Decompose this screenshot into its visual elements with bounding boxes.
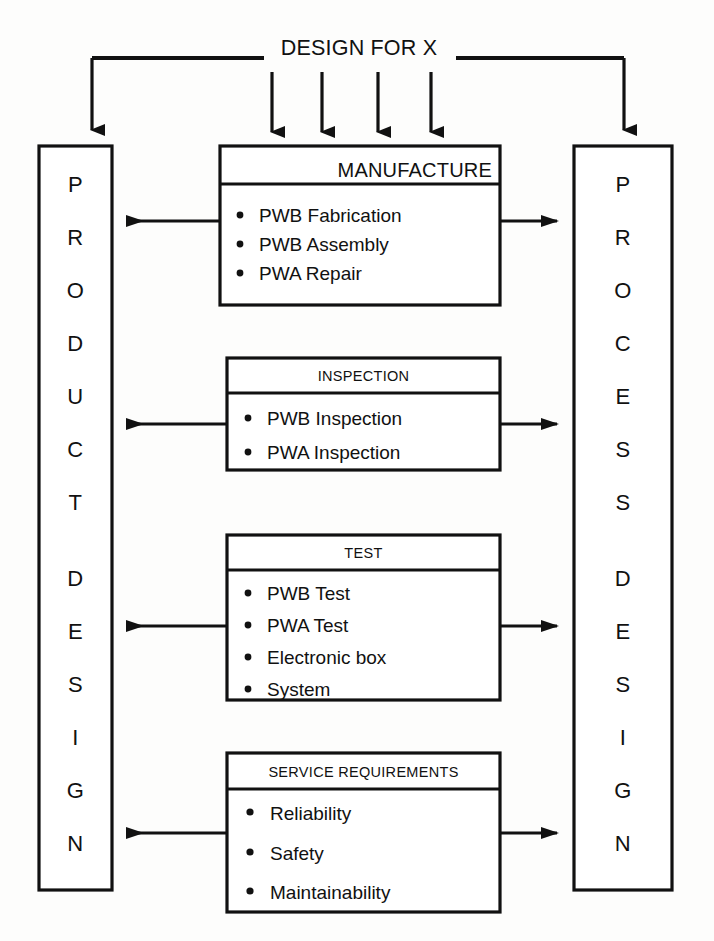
service-item-1: Safety: [270, 843, 324, 864]
bullet-dot: [245, 686, 252, 693]
test-item-2: Electronic box: [267, 647, 387, 668]
service-header-label: SERVICE REQUIREMENTS: [268, 764, 458, 780]
right-letter-5: S: [615, 437, 630, 462]
test-header-label: TEST: [344, 545, 382, 561]
left-letter-9: S: [68, 672, 83, 697]
bullet-dot: [237, 270, 244, 277]
inspection-item-0: PWB Inspection: [267, 408, 402, 429]
bullet-dot: [245, 622, 252, 629]
design-for-x-diagram: P R O D U C T D E S I G N P R O C E S S …: [0, 0, 714, 941]
right-letter-3: C: [615, 331, 631, 356]
right-letter-1: R: [615, 225, 631, 250]
service-item-2: Maintainability: [270, 882, 391, 903]
bullet-dot: [246, 848, 253, 855]
inspection-header-label: INSPECTION: [318, 368, 410, 384]
bullet-dot: [245, 415, 252, 422]
right-letter-9: S: [615, 672, 630, 697]
left-letter-0: P: [68, 172, 83, 197]
manufacture-box: MANUFACTURE PWB Fabrication PWB Assembly…: [220, 146, 500, 305]
left-letter-5: C: [67, 437, 83, 462]
right-letter-2: O: [614, 278, 632, 303]
service-item-0: Reliability: [270, 803, 352, 824]
bullet-dot: [245, 654, 252, 661]
diagram-title: DESIGN FOR X: [281, 36, 438, 60]
test-box: TEST PWB Test PWA Test Electronic box Sy…: [227, 535, 500, 700]
test-item-0: PWB Test: [267, 583, 351, 604]
test-item-3: System: [267, 679, 330, 700]
design-for-x-bus: [92, 58, 624, 130]
title-down-arrows-group: [272, 72, 431, 132]
right-letter-0: P: [615, 172, 630, 197]
bullet-dot: [245, 449, 252, 456]
left-letter-11: G: [67, 778, 85, 803]
design-for-x-title-group: DESIGN FOR X: [264, 36, 456, 68]
right-letter-11: G: [614, 778, 632, 803]
bullet-dot: [245, 590, 252, 597]
left-letter-3: D: [67, 331, 83, 356]
process-design-column: P R O C E S S D E S I G N: [574, 146, 672, 890]
manufacture-item-2: PWA Repair: [259, 263, 362, 284]
left-letter-7: D: [67, 566, 83, 591]
bullet-dot: [246, 887, 253, 894]
inspection-box: INSPECTION PWB Inspection PWA Inspection: [227, 358, 500, 470]
bullet-dot: [246, 808, 253, 815]
left-letter-12: N: [67, 831, 83, 856]
bullet-dot: [237, 241, 244, 248]
right-letter-6: S: [615, 490, 630, 515]
inspection-item-1: PWA Inspection: [267, 442, 400, 463]
diagram-canvas: P R O D U C T D E S I G N P R O C E S S …: [0, 0, 714, 941]
box-to-column-connectors: [128, 221, 557, 833]
bullet-dot: [237, 212, 244, 219]
left-letter-6: T: [69, 490, 83, 515]
right-letter-12: N: [615, 831, 631, 856]
right-letter-10: I: [620, 725, 627, 750]
left-letter-10: I: [72, 725, 79, 750]
manufacture-header-label: MANUFACTURE: [338, 159, 492, 181]
left-letter-1: R: [67, 225, 83, 250]
right-letter-7: D: [615, 566, 631, 591]
test-item-1: PWA Test: [267, 615, 349, 636]
left-letter-2: O: [67, 278, 85, 303]
service-requirements-box: SERVICE REQUIREMENTS Reliability Safety …: [227, 753, 500, 912]
left-letter-8: E: [68, 619, 83, 644]
product-design-column: P R O D U C T D E S I G N: [39, 146, 112, 890]
manufacture-item-1: PWB Assembly: [259, 234, 389, 255]
left-letter-4: U: [67, 384, 83, 409]
right-letter-8: E: [615, 619, 630, 644]
manufacture-item-0: PWB Fabrication: [259, 205, 402, 226]
right-letter-4: E: [615, 384, 630, 409]
